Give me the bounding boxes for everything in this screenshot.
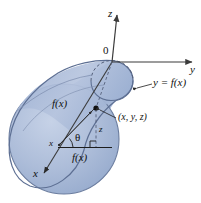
z-axis-label: z (108, 8, 112, 19)
point-label: (x, y, z) (118, 112, 147, 122)
solid-body (9, 60, 133, 194)
figure-canvas: z y 0 x y = f(x) (x, y, z) f(x) f(x) z x… (0, 0, 201, 203)
point-marker (93, 105, 98, 110)
base-length-label: f(x) (72, 152, 87, 163)
curve-label: y = f(x) (153, 77, 186, 88)
height-label: z (99, 125, 103, 134)
angle-label: θ (75, 132, 80, 143)
radius-axis-label: x (49, 139, 53, 148)
diagram-svg (0, 0, 201, 203)
curve-label-leader (137, 84, 152, 88)
x-axis-label: x (33, 168, 38, 179)
y-axis-label: y (190, 64, 195, 75)
z-axis (112, 15, 117, 62)
origin-label: 0 (103, 45, 109, 56)
slant-length-label: f(x) (52, 98, 67, 109)
